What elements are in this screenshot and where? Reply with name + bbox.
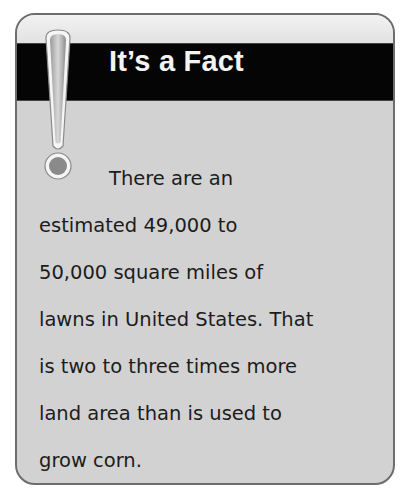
fact-body: There are an estimated 49,000 to 50,000 …	[39, 155, 389, 484]
fact-line: is two to three times more	[39, 343, 389, 390]
fact-line: 50,000 square miles of	[39, 249, 389, 296]
fact-line: land area than is used to	[39, 390, 389, 437]
fact-line: estimated 49,000 to	[39, 202, 389, 249]
callout-title: It’s a Fact	[109, 45, 244, 78]
exclamation-icon	[38, 28, 78, 184]
fact-line: grow corn.	[39, 437, 389, 484]
fact-line: There are an	[39, 155, 389, 202]
fact-line: lawns in United States. That	[39, 296, 389, 343]
